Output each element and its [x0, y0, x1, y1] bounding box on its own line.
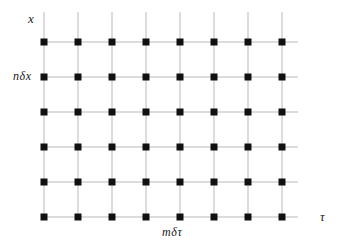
lattice-node — [143, 109, 150, 116]
lattice-node — [41, 214, 48, 221]
lattice-node — [143, 214, 150, 221]
lattice-node — [279, 144, 286, 151]
lattice-node — [279, 39, 286, 46]
lattice-node — [245, 144, 252, 151]
grid-lines-group — [44, 12, 298, 217]
lattice-node — [177, 144, 184, 151]
lattice-node — [109, 179, 116, 186]
lattice-node — [279, 179, 286, 186]
lattice-node — [177, 109, 184, 116]
lattice-node — [143, 39, 150, 46]
lattice-node — [279, 214, 286, 221]
lattice-node — [75, 179, 82, 186]
lattice-node — [245, 179, 252, 186]
lattice-node — [245, 39, 252, 46]
lattice-node — [177, 214, 184, 221]
lattice-node — [177, 39, 184, 46]
axis-label-tau: τ — [320, 210, 325, 223]
lattice-node — [177, 179, 184, 186]
lattice-node — [143, 144, 150, 151]
lattice-node — [143, 179, 150, 186]
lattice-node — [75, 214, 82, 221]
lattice-node — [41, 109, 48, 116]
lattice-figure: x nδx mδτ τ — [0, 0, 341, 249]
lattice-node — [211, 144, 218, 151]
lattice-node — [41, 144, 48, 151]
lattice-grid-canvas — [0, 0, 341, 249]
lattice-node — [109, 214, 116, 221]
lattice-node — [109, 39, 116, 46]
lattice-node — [75, 74, 82, 81]
grid-nodes-group — [41, 39, 286, 221]
lattice-node — [177, 74, 184, 81]
lattice-node — [143, 74, 150, 81]
lattice-node — [279, 74, 286, 81]
lattice-node — [245, 109, 252, 116]
lattice-node — [211, 74, 218, 81]
lattice-node — [41, 39, 48, 46]
lattice-node — [41, 179, 48, 186]
axis-label-x: x — [28, 12, 34, 25]
lattice-node — [75, 144, 82, 151]
lattice-node — [211, 39, 218, 46]
lattice-node — [109, 74, 116, 81]
lattice-node — [211, 214, 218, 221]
lattice-node — [41, 74, 48, 81]
axis-label-m-delta-tau: mδτ — [162, 226, 182, 238]
lattice-node — [109, 144, 116, 151]
lattice-node — [211, 179, 218, 186]
lattice-node — [75, 39, 82, 46]
lattice-node — [75, 109, 82, 116]
axis-label-n-delta-x: nδx — [13, 70, 32, 82]
lattice-node — [109, 109, 116, 116]
lattice-node — [245, 214, 252, 221]
lattice-node — [211, 109, 218, 116]
lattice-node — [279, 109, 286, 116]
lattice-node — [245, 74, 252, 81]
